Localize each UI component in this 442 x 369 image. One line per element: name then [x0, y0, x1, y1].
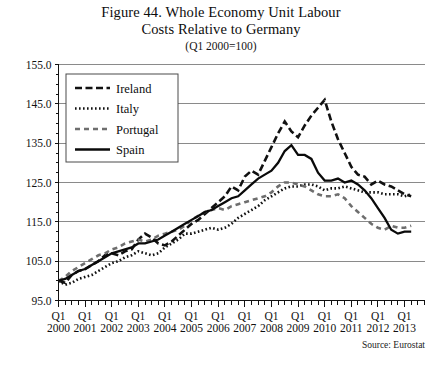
x-axis-quarter-label: Q1 [318, 310, 332, 322]
x-axis-year-label: 2000 [47, 322, 70, 334]
x-axis-year-label: 2004 [153, 322, 176, 334]
x-axis-year-label: 2002 [100, 322, 123, 334]
y-axis-tick-label: 95.0 [31, 295, 51, 307]
x-axis-year-label: 2012 [366, 322, 389, 334]
x-axis-quarter-label: Q1 [398, 310, 412, 322]
x-axis-quarter-label: Q1 [238, 310, 252, 322]
y-axis-tick-label: 125.0 [26, 177, 52, 189]
x-axis-quarter-label: Q1 [78, 310, 92, 322]
x-axis-year-label: 2007 [233, 322, 256, 334]
figure-container: Figure 44. Whole Economy Unit Labour Cos… [0, 0, 442, 369]
x-axis-tick-marks [59, 301, 425, 307]
y-axis-tick-label: 135.0 [26, 137, 52, 149]
x-axis-year-label: 2013 [393, 322, 416, 334]
line-chart: 95.0105.0115.0125.0135.0145.0155.0 Q1200… [0, 0, 442, 369]
y-axis-tick-label: 155.0 [26, 59, 52, 71]
x-axis-year-label: 2009 [287, 322, 310, 334]
x-axis-year-label: 2001 [74, 322, 97, 334]
x-axis-year-label: 2010 [313, 322, 336, 334]
legend-label-spain: Spain [116, 143, 145, 157]
plot-area-wrapper: 95.0105.0115.0125.0135.0145.0155.0 Q1200… [0, 0, 442, 369]
y-axis-tick-label: 145.0 [26, 98, 52, 110]
series-line-italy [59, 184, 412, 284]
x-axis-quarter-label: Q1 [344, 310, 358, 322]
x-axis-quarter-label: Q1 [211, 310, 225, 322]
chart-legend: IrelandItalyPortugalSpain [66, 74, 178, 162]
x-axis-year-label: 2003 [127, 322, 150, 334]
x-axis-quarter-label: Q1 [105, 310, 119, 322]
y-axis-tick-labels: 95.0105.0115.0125.0135.0145.0155.0 [26, 59, 52, 307]
legend-label-italy: Italy [116, 102, 140, 116]
x-axis-quarter-label: Q1 [264, 310, 278, 322]
x-axis-year-label: 2006 [207, 322, 230, 334]
legend-label-portugal: Portugal [116, 123, 159, 137]
x-axis-quarter-label: Q1 [371, 310, 385, 322]
x-axis-quarter-label: Q1 [131, 310, 145, 322]
y-axis-tick-label: 105.0 [26, 255, 52, 267]
x-axis-year-label: 2008 [260, 322, 283, 334]
x-axis-quarter-label: Q1 [51, 310, 65, 322]
legend-label-ireland: Ireland [116, 82, 152, 96]
y-axis-tick-marks [55, 65, 59, 301]
x-axis-quarter-label: Q1 [158, 310, 172, 322]
source-note: Source: Eurostat [362, 340, 425, 350]
x-axis-tick-labels: Q12000Q12001Q12002Q12003Q12004Q12005Q120… [47, 310, 416, 334]
x-axis-year-label: 2011 [340, 322, 363, 334]
x-axis-quarter-label: Q1 [291, 310, 305, 322]
x-axis-year-label: 2005 [180, 322, 203, 334]
y-axis-tick-label: 115.0 [26, 216, 52, 228]
x-axis-quarter-label: Q1 [185, 310, 199, 322]
